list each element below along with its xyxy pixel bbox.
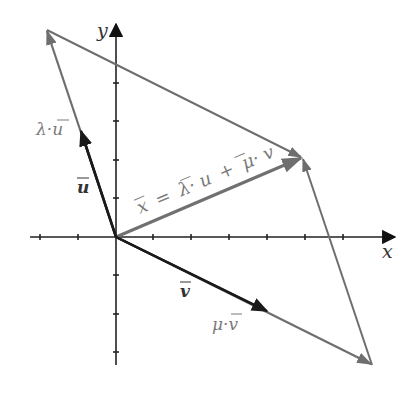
label-x-mu: μ·: [238, 147, 262, 173]
vector-diagram: y x λ·u u v: [0, 0, 413, 395]
svg-text:x = λ·: x = λ· u + μ· v: [133, 141, 277, 218]
label-x-lhs: x: [133, 194, 151, 217]
side-lambda-u-to-x: [47, 30, 301, 157]
label-v-text: v: [180, 281, 191, 301]
label-mu-v: μ·v: [212, 314, 242, 334]
label-u: u: [77, 177, 89, 197]
label-x-equation: x = λ· u + μ· v: [133, 141, 277, 218]
y-axis-label: y: [96, 19, 108, 41]
x-axis-label: x: [382, 240, 393, 262]
label-u-text: u: [77, 177, 89, 197]
label-v: v: [180, 281, 191, 301]
label-x-plus: +: [215, 158, 237, 183]
label-lambda-u: λ·u: [35, 119, 69, 139]
label-mu-v-text: μ·v: [212, 314, 238, 334]
label-lambda-u-text: λ·u: [35, 119, 63, 139]
label-x-eq: =: [152, 185, 174, 210]
label-x-u: u: [196, 167, 215, 191]
vector-labels: λ·u u v μ·v x = λ· u + μ· v: [35, 119, 277, 334]
